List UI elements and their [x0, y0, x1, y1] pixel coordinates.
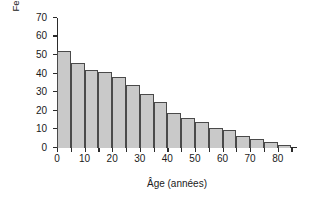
- bar: [209, 128, 223, 148]
- x-tick: [278, 148, 279, 152]
- bar: [264, 142, 278, 148]
- y-tick-label: 60: [36, 30, 47, 41]
- bar: [154, 102, 168, 148]
- bar: [195, 122, 209, 148]
- x-tick: [71, 148, 72, 152]
- x-tick: [85, 148, 86, 152]
- x-tick: [195, 148, 196, 152]
- x-tick: [181, 148, 182, 152]
- x-tick-label: 20: [107, 153, 118, 164]
- bar: [85, 70, 99, 148]
- plot-area: 010203040506070 01020304050607080: [57, 18, 297, 148]
- y-axis-title-line1: Femmes par année: [11, 0, 21, 11]
- x-tick: [112, 148, 113, 152]
- bar: [167, 113, 181, 148]
- bar: [126, 85, 140, 148]
- x-tick-label: 40: [162, 153, 173, 164]
- x-tick-label: 80: [272, 153, 283, 164]
- y-tick-label: 0: [41, 141, 47, 152]
- bar: [140, 94, 154, 148]
- bar: [98, 72, 112, 148]
- y-tick-label: 70: [36, 11, 47, 22]
- bar: [71, 63, 85, 148]
- x-tick: [236, 148, 237, 152]
- x-tick: [264, 148, 265, 152]
- x-tick-label: 60: [217, 153, 228, 164]
- x-tick: [98, 148, 99, 152]
- x-tick: [57, 148, 58, 152]
- x-tick: [291, 148, 292, 152]
- bar: [57, 51, 71, 148]
- x-tick-label: 10: [79, 153, 90, 164]
- x-tick-label: 30: [134, 153, 145, 164]
- x-tick-label: 50: [189, 153, 200, 164]
- y-tick-label: 10: [36, 123, 47, 134]
- y-tick-label: 20: [36, 104, 47, 115]
- bar: [278, 145, 292, 148]
- x-tick-label: 0: [54, 153, 60, 164]
- x-tick-label: 70: [245, 153, 256, 164]
- x-tick: [223, 148, 224, 152]
- x-tick: [167, 148, 168, 152]
- chart-figure: Femmes par année (millions) 010203040506…: [0, 0, 313, 202]
- bar: [236, 136, 250, 148]
- y-tick-label: 50: [36, 48, 47, 59]
- x-axis-title: Âge (années): [57, 178, 297, 189]
- y-tick-label: 40: [36, 67, 47, 78]
- bar: [250, 139, 264, 148]
- y-axis-title: Femmes par année (millions): [8, 0, 34, 40]
- bar-series: [57, 18, 297, 148]
- x-tick: [126, 148, 127, 152]
- x-tick: [140, 148, 141, 152]
- x-tick: [209, 148, 210, 152]
- x-tick: [154, 148, 155, 152]
- bar: [181, 118, 195, 148]
- bar: [223, 130, 237, 148]
- bar: [112, 77, 126, 149]
- y-tick-label: 30: [36, 86, 47, 97]
- x-tick: [250, 148, 251, 152]
